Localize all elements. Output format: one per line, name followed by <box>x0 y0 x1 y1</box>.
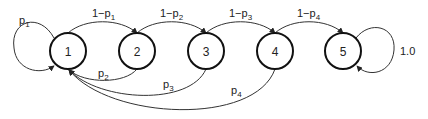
state-node-3: 3 <box>188 33 224 69</box>
edge-label-3-4: 1−p3 <box>229 7 253 22</box>
svg-text:5: 5 <box>340 45 347 59</box>
edge-label-2-1: p2 <box>98 67 109 82</box>
svg-text:3: 3 <box>203 45 210 59</box>
edge-label-3-1: p3 <box>163 78 174 93</box>
edge-3-1 <box>69 69 206 95</box>
state-node-5: 5 <box>325 33 361 69</box>
state-node-1: 1 <box>50 33 86 69</box>
svg-text:2: 2 <box>134 45 141 59</box>
edge-label-4-1: p4 <box>231 84 242 99</box>
edge-4-5 <box>275 22 343 33</box>
edge-2-3 <box>137 22 206 33</box>
edge-label-4-5: 1−p4 <box>297 7 321 22</box>
edge-label-1-2: 1−p1 <box>92 7 116 22</box>
edge-label-1-1: p1 <box>19 14 30 29</box>
state-node-4: 4 <box>257 33 293 69</box>
svg-text:1: 1 <box>65 45 72 59</box>
state-node-2: 2 <box>119 33 155 69</box>
svg-text:4: 4 <box>272 45 279 59</box>
edge-label-2-3: 1−p2 <box>160 7 184 22</box>
edge-label-5-5: 1.0 <box>400 45 415 57</box>
edge-1-2 <box>68 22 137 33</box>
edge-3-4 <box>206 22 275 33</box>
edge-1-1-self-loop <box>14 22 54 70</box>
markov-chain-diagram: p1 1−p1 1−p2 1−p3 1−p4 p2 p3 p4 1.0 1 2 … <box>0 0 428 119</box>
